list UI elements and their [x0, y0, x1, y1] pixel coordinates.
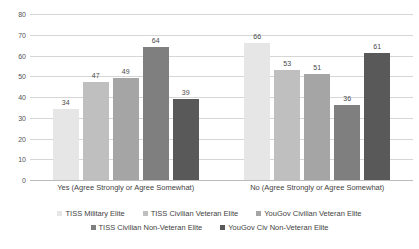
- bar-value-label: 64: [143, 37, 169, 44]
- bar: [83, 82, 109, 180]
- bar-value-label: 47: [83, 72, 109, 79]
- legend-item[interactable]: TISS Civilian Veteran Elite: [143, 209, 239, 218]
- bar-value-label: 36: [334, 95, 360, 102]
- bar-value-label: 39: [173, 89, 199, 96]
- bar-chart: Chart 01020304050607080 3447496439665351…: [0, 0, 419, 249]
- legend-swatch-icon: [91, 225, 96, 230]
- legend: TISS Military EliteTISS Civilian Veteran…: [0, 206, 419, 234]
- bar: [244, 43, 270, 180]
- legend-row: TISS Civilian Non-Veteran EliteYouGov Ci…: [0, 220, 419, 234]
- bar: [304, 74, 330, 180]
- bar-value-label: 53: [274, 60, 300, 67]
- bar: [143, 47, 169, 180]
- bar-value-label: 51: [304, 64, 330, 71]
- bar: [113, 78, 139, 180]
- legend-row: TISS Military EliteTISS Civilian Veteran…: [0, 206, 419, 220]
- legend-item[interactable]: TISS Military Elite: [57, 209, 124, 218]
- legend-swatch-icon: [256, 211, 261, 216]
- legend-label: YouGov Civilian Veteran Elite: [264, 209, 361, 218]
- y-axis-tick-label: 0: [22, 177, 26, 184]
- bar: [53, 109, 79, 180]
- chart-title: Chart: [0, 0, 419, 2]
- y-axis-tick-label: 40: [18, 94, 26, 101]
- y-axis-tick-label: 60: [18, 52, 26, 59]
- y-axis-tick-label: 10: [18, 156, 26, 163]
- y-axis: 01020304050607080: [0, 14, 30, 180]
- bar-group: 3447496439: [30, 14, 222, 180]
- category-axis: Yes (Agree Strongly or Agree Somewhat)No…: [30, 183, 413, 195]
- bar: [334, 105, 360, 180]
- legend-label: YouGov Civ Non-Veteran Elite: [228, 223, 328, 232]
- y-axis-tick-label: 50: [18, 73, 26, 80]
- bar: [173, 99, 199, 180]
- legend-item[interactable]: YouGov Civ Non-Veteran Elite: [220, 223, 328, 232]
- axis-baseline: [30, 180, 413, 181]
- bar-value-label: 34: [53, 99, 79, 106]
- bar-value-label: 49: [113, 68, 139, 75]
- category-label: Yes (Agree Strongly or Agree Somewhat): [30, 183, 222, 192]
- legend-label: TISS Military Elite: [65, 209, 124, 218]
- legend-item[interactable]: TISS Civilian Non-Veteran Elite: [91, 223, 203, 232]
- y-axis-tick-label: 80: [18, 11, 26, 18]
- bar-value-label: 66: [244, 33, 270, 40]
- bar-group: 6653513661: [222, 14, 414, 180]
- legend-swatch-icon: [57, 211, 62, 216]
- legend-label: TISS Civilian Non-Veteran Elite: [99, 223, 203, 232]
- plot-area: 01020304050607080 34474964396653513661: [0, 14, 419, 180]
- y-axis-tick-label: 20: [18, 135, 26, 142]
- legend-swatch-icon: [143, 211, 148, 216]
- y-axis-tick-label: 70: [18, 31, 26, 38]
- legend-swatch-icon: [220, 225, 225, 230]
- bar-value-label: 61: [364, 43, 390, 50]
- legend-item[interactable]: YouGov Civilian Veteran Elite: [256, 209, 361, 218]
- y-axis-tick-label: 30: [18, 114, 26, 121]
- legend-label: TISS Civilian Veteran Elite: [151, 209, 239, 218]
- bar: [274, 70, 300, 180]
- bars-layer: 34474964396653513661: [30, 14, 413, 180]
- category-label: No (Agree Strongly or Agree Somewhat): [222, 183, 414, 192]
- bar: [364, 53, 390, 180]
